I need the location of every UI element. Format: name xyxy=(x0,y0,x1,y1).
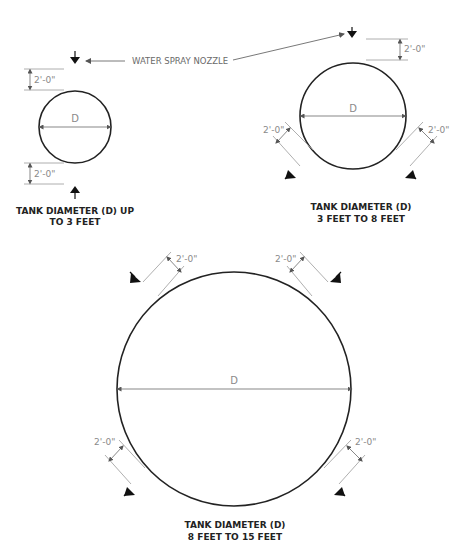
large-lower-right-clearance-label: 2'-0" xyxy=(355,437,376,447)
medium-tank-caption-line2: 3 FEET TO 8 FEET xyxy=(317,214,406,224)
small-top-clearance-label: 2'-0" xyxy=(34,75,55,85)
spray-nozzle-diagram: D 2'-0" 2'-0" TANK DIAMETER (D) UP TO 3 … xyxy=(0,0,464,555)
large-upper-left-clearance-label: 2'-0" xyxy=(176,254,197,264)
large-diameter-label: D xyxy=(230,375,238,386)
large-tank-detail: D 2'-0" 2'-0" 2'-0" 2'-0" TANK DIAMETER … xyxy=(94,252,376,542)
nozzle-icon xyxy=(70,186,80,193)
medium-top-clearance-label: 2'-0" xyxy=(404,44,425,54)
medium-right-clearance-label: 2'-0" xyxy=(428,125,449,135)
callout-leader-right xyxy=(233,34,344,60)
nozzle-icon xyxy=(347,31,357,38)
medium-tank-detail: D 2'-0" 2'-0" 2'-0" TANK DIAMETER (D) 3 … xyxy=(263,27,449,224)
large-upper-right-clearance-label: 2'-0" xyxy=(275,254,296,264)
large-tank-caption-line1: TANK DIAMETER (D) xyxy=(185,520,286,530)
medium-left-clearance-label: 2'-0" xyxy=(263,125,284,135)
medium-diameter-label: D xyxy=(349,103,357,114)
small-bottom-clearance-label: 2'-0" xyxy=(34,169,55,179)
small-tank-detail: D 2'-0" 2'-0" TANK DIAMETER (D) UP TO 3 … xyxy=(16,51,134,227)
nozzle-icon xyxy=(130,273,141,283)
large-lower-left-clearance-dim xyxy=(110,447,122,460)
nozzle-callout: WATER SPRAY NOZZLE xyxy=(86,34,344,66)
medium-tank-caption-line1: TANK DIAMETER (D) xyxy=(311,202,412,212)
small-tank-caption-line2: TO 3 FEET xyxy=(50,217,102,227)
nozzle-icon xyxy=(330,273,341,283)
large-lower-right-clearance-dim xyxy=(348,447,361,460)
large-tank-caption-line2: 8 FEET TO 15 FEET xyxy=(188,532,283,542)
small-diameter-label: D xyxy=(71,113,79,124)
nozzle-icon xyxy=(70,57,80,64)
small-tank-caption-line1: TANK DIAMETER (D) UP xyxy=(16,206,134,216)
large-lower-left-clearance-label: 2'-0" xyxy=(94,437,115,447)
callout-label: WATER SPRAY NOZZLE xyxy=(132,56,228,66)
